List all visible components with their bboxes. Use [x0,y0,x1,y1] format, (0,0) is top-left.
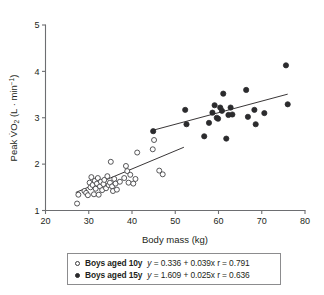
axis-lines [46,25,306,211]
data-point [76,192,81,197]
data-point [128,172,133,177]
legend-item-label: Boys aged 10y [85,258,142,268]
legend-equation-text: = 0.336 + 0.039x r = 0.791 [154,258,250,268]
x-tick-label: 20 [40,216,50,226]
data-point [183,107,188,112]
x-tick-label: 60 [213,216,223,226]
data-point [126,180,131,185]
data-point [253,122,258,127]
data-point [114,187,119,192]
x-axis-title: Body mass (kg) [142,234,208,245]
data-point [117,179,122,184]
y-tick-label: 5 [34,20,39,30]
y-tick-label: 4 [34,67,39,77]
legend-row: Boys aged 10y y = 0.336 + 0.039x r = 0.7… [73,257,275,269]
y-tick-label: 2 [34,159,39,169]
data-point [91,192,96,197]
data-point [283,63,288,68]
legend-item-label: Boys aged 15y [85,270,142,280]
x-tick-label: 30 [84,216,94,226]
x-tick-label: 50 [170,216,180,226]
data-point [252,107,257,112]
data-point [262,111,267,116]
data-point [108,159,113,164]
y-tick-label: 1 [34,206,39,216]
data-point [210,110,215,115]
data-point [244,87,249,92]
data-point [206,120,211,125]
data-point [85,193,90,198]
data-point [215,116,220,121]
legend: Boys aged 10y y = 0.336 + 0.039x r = 0.7… [67,253,281,285]
data-point [133,176,138,181]
data-point [285,102,290,107]
x-tick-label: 40 [127,216,137,226]
data-point [224,136,229,141]
data-point [75,201,80,206]
legend-item-equation: y = 0.336 + 0.039x r = 0.791 [147,258,249,268]
data-point [152,138,157,143]
legend-row: Boys aged 15y y = 1.609 + 0.025x r = 0.6… [73,269,275,281]
x-axis-ticks: 20304050607080 [40,211,310,226]
data-point [151,129,156,134]
data-point [221,91,226,96]
data-point [122,176,127,181]
y-axis-ticks: 12345 [34,20,45,216]
axes [46,25,306,211]
data-point [245,114,250,119]
data-point [202,134,207,139]
y-axis-title: Peak V̇O2 (L · min−1) [8,75,20,162]
data-points-boys-10y [75,138,166,207]
data-point [212,103,217,108]
data-point [96,192,101,197]
x-tick-label: 80 [300,216,310,226]
legend-equation-text: = 1.609 + 0.025x r = 0.636 [154,270,250,280]
plot-canvas: 12345 20304050607080 Peak V̇O2 (L · min−… [0,0,324,295]
scatter-plot-figure: 12345 20304050607080 Peak V̇O2 (L · min−… [0,0,324,295]
data-point [105,174,110,179]
data-point [228,105,233,110]
data-point [160,172,165,177]
data-point [184,122,189,127]
data-point [123,163,128,168]
data-point [150,147,155,152]
x-tick-label: 70 [257,216,267,226]
data-point [230,112,235,117]
open-circle-icon [73,259,82,268]
data-points-boys-15y [151,63,291,141]
y-tick-label: 3 [34,113,39,123]
data-point [219,108,224,113]
filled-circle-icon [73,271,82,280]
data-point [135,150,140,155]
legend-item-equation: y = 1.609 + 0.025x r = 0.636 [147,270,249,280]
